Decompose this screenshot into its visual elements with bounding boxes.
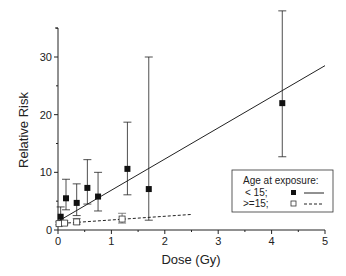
legend-label-under15: < 15; [245,187,268,198]
open-square-marker [61,220,67,226]
axes: 0102030012345 [40,28,328,247]
legend-filled-square-icon [291,190,296,195]
filled-square-marker [95,194,101,200]
x-tick-label: 2 [162,235,168,247]
x-axis-title: Dose (Gy) [161,252,220,267]
filled-square-marker [279,100,285,106]
y-tick-label: 0 [46,224,52,236]
legend-open-square-icon [291,201,296,206]
legend: Age at exposure: < 15; >=15; [232,170,333,212]
x-tick-label: 1 [108,235,114,247]
filled-square-marker [84,185,90,191]
filled-square-marker [63,195,69,201]
filled-square-marker [74,200,80,206]
y-tick-label: 30 [40,51,52,63]
chart: 0102030012345 Dose (Gy) Relative Risk Ag… [0,0,346,276]
filled-square-marker [146,186,152,192]
x-tick-label: 5 [322,235,328,247]
open-square-marker [119,216,125,222]
x-tick-label: 4 [269,235,275,247]
filled-square-marker [58,214,64,220]
open-square-marker [74,219,80,225]
y-axis-title: Relative Risk [16,92,31,168]
legend-title: Age at exposure: [243,175,319,186]
x-tick-label: 3 [215,235,221,247]
x-tick-label: 0 [55,235,61,247]
filled-square-marker [124,166,130,172]
legend-label-over15: >=15; [243,198,269,209]
y-tick-label: 20 [40,109,52,121]
y-tick-label: 10 [40,166,52,178]
